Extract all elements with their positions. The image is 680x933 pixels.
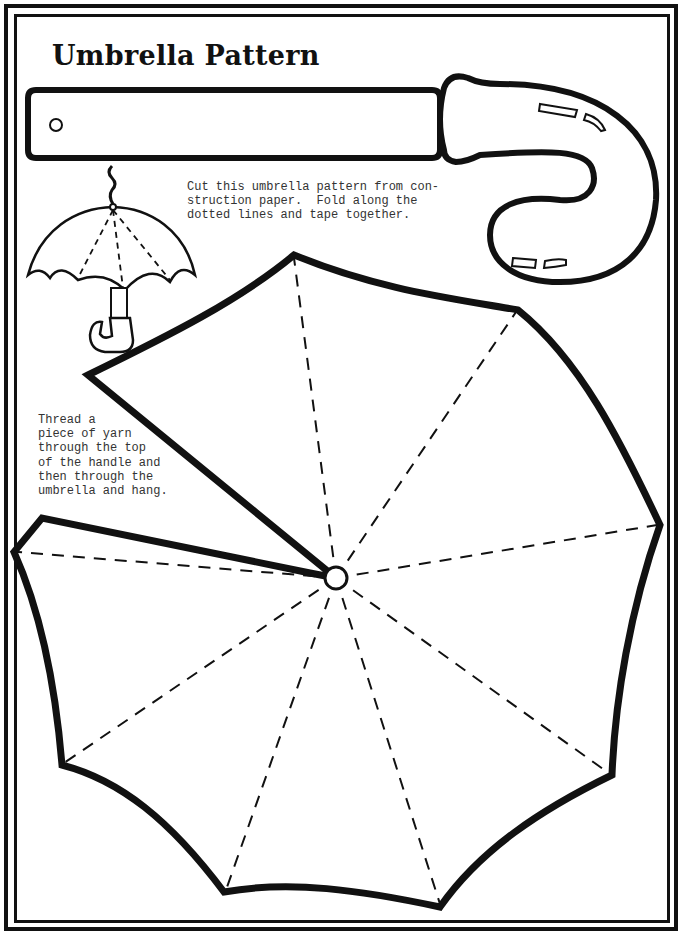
canopy-center-hole-icon	[325, 567, 347, 589]
worksheet-page: Umbrella Pattern Cut this umbrella patte…	[0, 0, 680, 933]
umbrella-canopy-pattern	[0, 0, 680, 933]
